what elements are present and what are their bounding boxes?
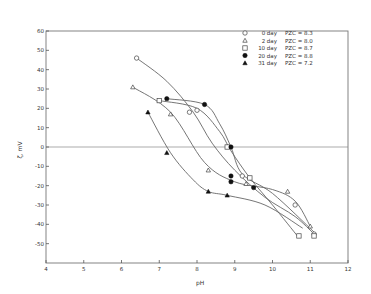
y-tick-label: 50 [37,47,44,53]
y-tick-label: -20 [35,183,44,189]
data-point-2-day [308,224,312,228]
data-point-20-day [251,185,255,189]
legend-item-10-day: 10 dayPZC = 8.7 [243,45,313,52]
data-point-20-day [229,180,233,184]
y-axis-label: ζ, mV [16,141,24,159]
legend-pzc: PZC = 8.8 [285,53,313,59]
legend: 0 dayPZC = 8.32 dayPZC = 8.010 dayPZC = … [243,30,313,67]
legend-label: 10 day [258,45,278,52]
data-point-31-day [165,151,169,155]
legend-label: 0 day [262,30,278,37]
curve-10-day [159,101,299,238]
y-tick-label: -50 [35,241,44,247]
curve-31-day [148,112,303,228]
y-tick-label: 0 [41,144,45,150]
x-axis-ticks: 456789101112 [44,260,351,272]
data-point-10-day [297,234,301,238]
legend-label: 31 day [258,60,278,67]
data-point-31-day [146,110,150,114]
legend-label: 2 day [262,38,278,45]
legend-label: 20 day [258,53,278,60]
data-point-10-day [248,176,252,180]
legend-pzc: PZC = 8.3 [285,30,313,36]
data-point-0-day [187,110,191,114]
zeta-potential-chart: 6050403020100-10-20-30-40-50 45678910111… [0,0,371,294]
legend-item-20-day: 20 dayPZC = 8.8 [243,53,313,60]
data-point-20-day [202,102,206,106]
x-tick-label: 6 [120,266,124,272]
data-point-0-day [134,56,138,60]
x-axis-label: pH [196,279,204,287]
y-tick-label: -10 [35,163,44,169]
legend-item-2-day: 2 dayPZC = 8.0 [243,38,313,45]
y-tick-label: 10 [37,125,44,131]
data-point-2-day [131,85,135,89]
data-point-10-day [312,234,316,238]
y-tick-label: -40 [35,221,44,227]
legend-pzc: PZC = 8.0 [285,38,313,44]
x-tick-label: 4 [44,266,48,272]
data-point-2-day [206,168,210,172]
data-point-31-day [206,189,210,193]
x-tick-label: 11 [307,266,314,272]
y-tick-label: 40 [37,67,44,73]
x-tick-label: 7 [158,266,162,272]
data-point-2-day [285,189,289,193]
y-tick-label: 60 [37,28,44,34]
legend-item-31-day: 31 dayPZC = 7.2 [243,60,313,67]
legend-pzc: PZC = 8.7 [285,45,313,51]
y-tick-label: -30 [35,202,44,208]
data-point-20-day [229,174,233,178]
x-tick-label: 5 [82,266,86,272]
data-point-10-day [157,98,161,102]
y-axis-ticks: 6050403020100-10-20-30-40-50 [35,28,49,247]
curve-2-day [133,87,310,226]
open-square-icon [243,46,247,50]
y-tick-label: 20 [37,105,44,111]
y-tick-label: 30 [37,86,44,92]
x-tick-label: 8 [195,266,199,272]
x-tick-label: 12 [345,266,352,272]
open-triangle-icon [243,38,247,42]
series-curves [133,58,314,238]
filled-triangle-icon [243,61,247,65]
data-point-20-day [165,96,169,100]
legend-pzc: PZC = 7.2 [285,60,313,66]
data-point-0-day [240,174,244,178]
data-point-0-day [293,203,297,207]
x-tick-label: 9 [233,266,237,272]
data-point-0-day [195,108,199,112]
filled-circle-icon [243,53,247,57]
open-circle-icon [243,31,247,35]
x-tick-label: 10 [269,266,276,272]
data-point-20-day [229,145,233,149]
